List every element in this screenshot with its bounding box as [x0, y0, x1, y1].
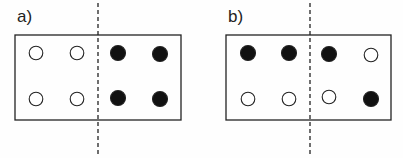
filled-circle: [153, 92, 168, 107]
open-circle: [322, 90, 336, 104]
filled-circle: [111, 46, 126, 61]
open-circle: [70, 46, 84, 60]
open-circle: [241, 92, 255, 106]
diagram: [0, 0, 403, 158]
open-circle: [29, 46, 43, 60]
open-circle: [70, 92, 84, 106]
panel-a: [15, 3, 181, 155]
open-circle: [29, 92, 43, 106]
filled-circle: [241, 46, 256, 61]
panel-b: [226, 3, 391, 155]
open-circle: [364, 48, 378, 62]
filled-circle: [111, 91, 126, 106]
filled-circle: [364, 92, 379, 107]
filled-circle: [153, 47, 168, 62]
filled-circle: [322, 47, 337, 62]
open-circle: [282, 92, 296, 106]
filled-circle: [282, 46, 297, 61]
